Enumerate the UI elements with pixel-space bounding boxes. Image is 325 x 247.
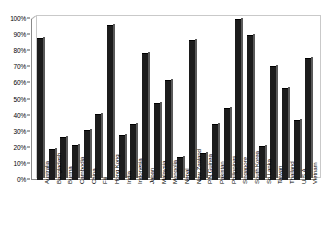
bar-slot bbox=[69, 19, 81, 180]
x-axis-slot: Singapore bbox=[232, 182, 244, 246]
x-axis-tick-label: Vietnam bbox=[311, 162, 318, 184]
y-axis-tick-label: 0% bbox=[17, 176, 26, 183]
bar-slot bbox=[151, 19, 163, 180]
bar bbox=[37, 38, 43, 180]
x-axis: AustraliaBangladeshBurmaCambodiaChinaFij… bbox=[32, 182, 316, 246]
bar-slot bbox=[291, 19, 303, 180]
y-axis-tick-mark bbox=[27, 179, 30, 180]
x-axis-tick-label: Bangladesh bbox=[55, 153, 62, 184]
x-axis-tick-label: Malaysia bbox=[160, 161, 167, 184]
x-axis-slot: Vietnam bbox=[302, 182, 314, 246]
bar bbox=[189, 40, 195, 180]
bar bbox=[107, 25, 113, 180]
x-axis-slot: P.N.Guinea bbox=[197, 182, 209, 246]
x-axis-slot: Philippines bbox=[221, 182, 233, 246]
bar-chart: 0%10%20%30%40%50%60%70%80%90%100% Austra… bbox=[0, 0, 325, 247]
y-axis-tick-label: 100% bbox=[10, 15, 26, 22]
x-axis-tick-label: Thailand bbox=[288, 161, 295, 184]
x-axis-tick-label: Singapore bbox=[241, 157, 248, 184]
x-axis-slot: Fiji bbox=[92, 182, 104, 246]
y-axis-tick-mark bbox=[27, 162, 30, 163]
x-axis-slot: India bbox=[116, 182, 128, 246]
bar-slot bbox=[139, 19, 151, 180]
x-axis-slot: Taiwan bbox=[267, 182, 279, 246]
x-axis-slot: Australia bbox=[34, 182, 46, 246]
x-axis-slot: Japan bbox=[139, 182, 151, 246]
x-axis-slot: Sri Lanka bbox=[256, 182, 268, 246]
bar-slot bbox=[279, 19, 291, 180]
y-axis-tick-label: 30% bbox=[14, 127, 26, 134]
x-axis-slot: Bangladesh bbox=[46, 182, 58, 246]
x-axis-slot: New Zealand bbox=[186, 182, 198, 246]
bar-slot bbox=[81, 19, 93, 180]
y-axis-tick-label: 80% bbox=[14, 47, 26, 54]
y-axis-tick-label: 50% bbox=[14, 95, 26, 102]
bar-slot bbox=[162, 19, 174, 180]
x-axis-slot: Thailand bbox=[279, 182, 291, 246]
y-axis: 0%10%20%30%40%50%60%70%80%90%100% bbox=[0, 14, 30, 182]
y-axis-tick-label: 20% bbox=[14, 143, 26, 150]
y-axis-tick-mark bbox=[27, 66, 30, 67]
x-axis-slot: South Korea bbox=[244, 182, 256, 246]
y-axis-tick-mark bbox=[27, 114, 30, 115]
x-axis-slot: Nepal bbox=[174, 182, 186, 246]
x-axis-tick-label: Cambodia bbox=[78, 157, 85, 184]
y-axis-tick-label: 10% bbox=[14, 159, 26, 166]
y-axis-tick-mark bbox=[27, 18, 30, 19]
y-axis-tick-mark bbox=[27, 146, 30, 147]
x-axis-tick-label: Pakistan bbox=[218, 161, 225, 184]
x-axis-slot: Malaysia bbox=[151, 182, 163, 246]
x-axis-slot: Indonesia bbox=[127, 182, 139, 246]
x-axis-tick-label: New Zealand bbox=[195, 149, 202, 184]
x-axis-tick-label: Australia bbox=[43, 161, 50, 184]
y-axis-tick-mark bbox=[27, 82, 30, 83]
x-axis-slot: Pakistan bbox=[209, 182, 221, 246]
y-axis-tick-mark bbox=[27, 50, 30, 51]
bar-slot bbox=[267, 19, 279, 180]
x-axis-tick-label: South Korea bbox=[253, 151, 260, 184]
x-axis-tick-label: Indonesia bbox=[136, 159, 143, 185]
x-axis-tick-label: P.N.Guinea bbox=[206, 154, 213, 184]
plot-area bbox=[32, 19, 316, 180]
bar-slot bbox=[127, 19, 139, 180]
y-axis-tick-mark bbox=[27, 34, 30, 35]
y-axis-tick-mark bbox=[27, 98, 30, 99]
y-axis-tick-mark bbox=[27, 130, 30, 131]
bar-slot bbox=[174, 19, 186, 180]
x-axis-slot: U.S.A bbox=[291, 182, 303, 246]
y-axis-tick-label: 40% bbox=[14, 111, 26, 118]
bar-slot bbox=[34, 19, 46, 180]
x-axis-tick-label: Mongolia bbox=[171, 160, 178, 184]
x-axis-slot: Mongolia bbox=[162, 182, 174, 246]
y-axis-tick-label: 90% bbox=[14, 31, 26, 38]
x-axis-tick-label: Hong Kong bbox=[113, 154, 120, 184]
bar-slot bbox=[302, 19, 314, 180]
x-axis-slot: Burma bbox=[57, 182, 69, 246]
x-axis-slot: Hong Kong bbox=[104, 182, 116, 246]
x-axis-tick-label: Philippines bbox=[230, 156, 237, 184]
bar-slot bbox=[92, 19, 104, 180]
y-axis-tick-label: 60% bbox=[14, 79, 26, 86]
x-axis-slot: China bbox=[81, 182, 93, 246]
y-axis-tick-label: 70% bbox=[14, 63, 26, 70]
x-axis-slot: Cambodia bbox=[69, 182, 81, 246]
x-axis-tick-label: Sri Lanka bbox=[265, 159, 272, 184]
